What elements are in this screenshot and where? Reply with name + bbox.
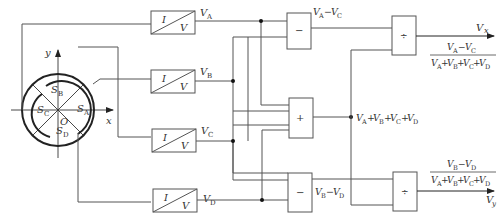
adder-block: + [289, 98, 313, 138]
svg-text:S: S [37, 104, 44, 115]
signal-label-vc: V C [201, 125, 213, 139]
signal-label-vb: V B [200, 66, 212, 80]
origin-label: O [60, 116, 68, 127]
svg-text:C: C [44, 110, 49, 118]
output-x: V x VA − VC VA + VB + VC + VD [416, 22, 496, 71]
divide-block-y: ÷ [393, 172, 417, 211]
svg-text:S: S [77, 103, 84, 114]
svg-text:D: D [339, 192, 344, 200]
label-diff-x: V A − V C [313, 6, 342, 20]
electrode-label-b: S B [51, 84, 63, 98]
subtract-block-x: − [287, 13, 311, 49]
y-axis-label: y [44, 47, 51, 58]
signal-label-va: V A [200, 7, 213, 21]
svg-text:D: D [471, 164, 476, 172]
svg-text:D: D [63, 131, 69, 139]
subtract-block-y: − [288, 173, 312, 212]
svg-text:C: C [208, 131, 213, 139]
divide-block-x: ÷ [392, 16, 416, 55]
label-sum: VA + VB + VC + VD [356, 112, 418, 126]
svg-text:S: S [51, 84, 58, 95]
label-diff-y: V B − V D [315, 186, 344, 200]
converter-d: I V [153, 189, 197, 212]
svg-text:C: C [337, 12, 342, 20]
signal-routing [195, 19, 289, 202]
svg-text:D: D [413, 118, 418, 126]
electrode-label-a: S A [77, 103, 90, 117]
x-axis-label: x [106, 115, 112, 126]
svg-text:B: B [58, 90, 63, 98]
svg-text:+: + [296, 112, 304, 123]
svg-text:A: A [206, 13, 213, 21]
svg-text:C: C [471, 47, 476, 55]
svg-text:B: B [207, 72, 212, 80]
svg-text:D: D [485, 180, 490, 188]
intermediate-routing [311, 28, 393, 205]
svg-text:−: − [295, 25, 303, 36]
electrode-label-c: S C [37, 104, 49, 118]
svg-text:÷: ÷ [400, 31, 408, 41]
svg-text:÷: ÷ [401, 187, 409, 197]
converter-c: I V [152, 129, 196, 152]
svg-text:−: − [296, 187, 304, 198]
svg-text:D: D [485, 63, 490, 71]
converter-b: I V [151, 70, 195, 93]
svg-text:y: y [491, 200, 497, 208]
position-detection-block-diagram: x y S B S C S A S D O [0, 0, 497, 222]
svg-text:x: x [484, 26, 489, 35]
output-y: V y VB − VD VA + VB + VC + VD [417, 159, 497, 208]
quadrant-sensor: x y S B S C S A S D O [11, 47, 113, 158]
converter-a: I V [151, 11, 195, 34]
svg-text:A: A [83, 109, 90, 117]
